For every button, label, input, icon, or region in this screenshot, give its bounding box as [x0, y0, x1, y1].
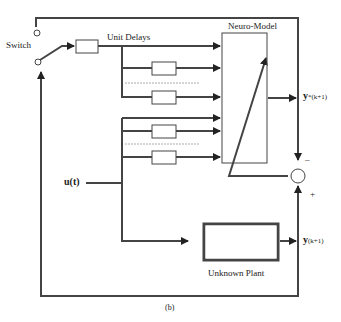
input-label: u(t) [64, 176, 80, 187]
switch-arm [40, 46, 74, 60]
plant-output-label: y(k+1) [303, 234, 324, 245]
block-diagram [0, 0, 341, 322]
unknown-plant-box [204, 224, 278, 260]
unknown-plant-label: Unknown Plant [208, 268, 264, 278]
switch-label: Switch [6, 40, 31, 50]
model-output-label: y*(k+1) [303, 90, 327, 101]
neuro-model-label: Neuro-Model [228, 21, 277, 31]
plus-sign: + [310, 189, 315, 199]
unit-delay-2 [152, 91, 176, 104]
neuro-model-box [222, 33, 267, 163]
unit-delay-3 [152, 125, 176, 138]
unit-delay-main [76, 40, 98, 53]
switch-contact-top [34, 30, 40, 36]
unit-delays-label: Unit Delays [107, 32, 150, 42]
figure-caption: (b) [165, 303, 174, 312]
unit-delay-4 [152, 151, 176, 164]
summing-junction [291, 169, 305, 183]
minus-sign: – [305, 154, 310, 164]
unit-delay-1 [152, 62, 176, 75]
